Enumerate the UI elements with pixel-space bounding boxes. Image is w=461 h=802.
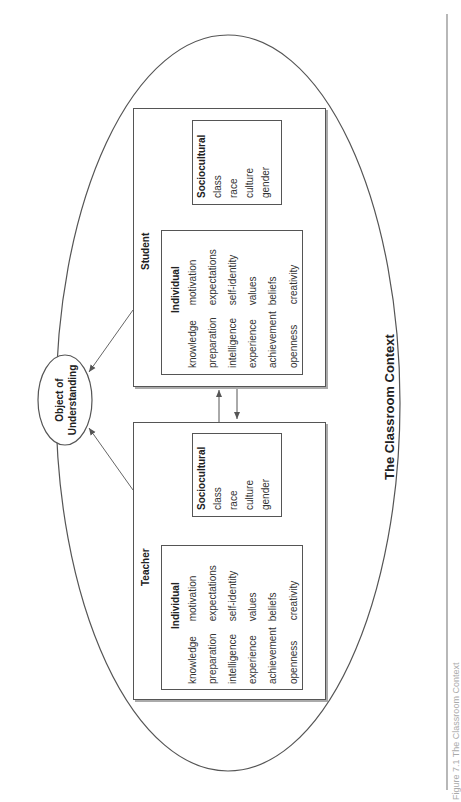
object-of-understanding-label: Object of Understanding bbox=[53, 364, 79, 436]
student-individual-table: knowledgemotivation preparationexpectati… bbox=[187, 249, 300, 368]
teacher-individual-table: knowledgemotivation preparationexpectati… bbox=[187, 565, 300, 684]
classroom-context-label: The Classroom Context bbox=[382, 334, 397, 480]
figure-caption: Figure 7.1 The Classroom Context bbox=[451, 663, 461, 800]
teacher-individual: Individual knowledgemotivation preparati… bbox=[170, 565, 300, 684]
teacher-title: Teacher bbox=[140, 548, 151, 586]
student-individual: Individual knowledgemotivation preparati… bbox=[170, 249, 300, 368]
student-title: Student bbox=[140, 233, 151, 270]
teacher-sociocultural: Sociocultural class race culture gender bbox=[196, 447, 271, 510]
student-sociocultural: Sociocultural class race culture gender bbox=[196, 135, 271, 198]
